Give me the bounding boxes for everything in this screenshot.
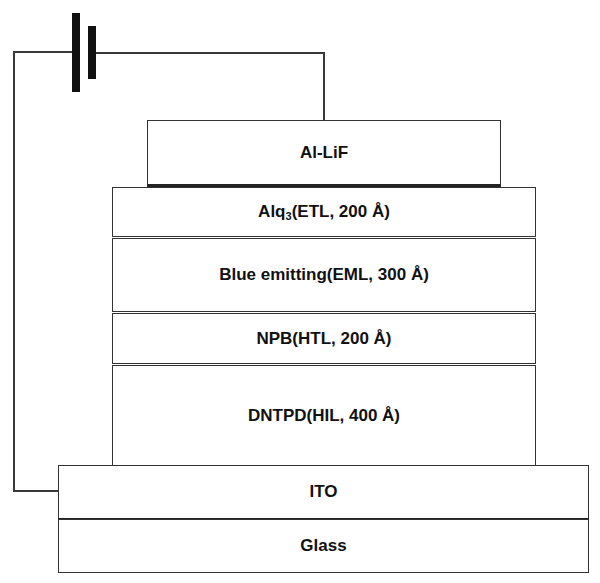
layer-npb-htl: NPB(HTL, 200 Å) — [112, 313, 536, 364]
layer-label: ITO — [309, 482, 337, 502]
wire-left-vertical — [13, 51, 15, 491]
layer-dntpd-hil: DNTPD(HIL, 400 Å) — [112, 365, 536, 466]
wire-top-left — [13, 51, 75, 53]
layer-label: Al-LiF — [300, 143, 348, 163]
layer-label: Alq3(ETL, 200 Å) — [258, 202, 390, 222]
wire-top-right — [92, 52, 325, 54]
layer-glass: Glass — [58, 519, 589, 573]
layer-label: Glass — [300, 536, 346, 556]
layer-label: NPB(HTL, 200 Å) — [256, 329, 391, 349]
layer-ito: ITO — [58, 465, 589, 520]
battery-long-plate — [72, 13, 80, 92]
layer-al-lif: Al-LiF — [147, 120, 501, 187]
wire-bottom-left — [13, 490, 58, 492]
wire-right-vertical — [323, 52, 325, 120]
layer-label: DNTPD(HIL, 400 Å) — [248, 406, 400, 426]
layer-alq3-etl: Alq3(ETL, 200 Å) — [112, 187, 536, 237]
layer-label: Blue emitting(EML, 300 Å) — [219, 265, 429, 285]
layer-eml: Blue emitting(EML, 300 Å) — [112, 238, 536, 312]
battery-short-plate — [88, 26, 96, 79]
